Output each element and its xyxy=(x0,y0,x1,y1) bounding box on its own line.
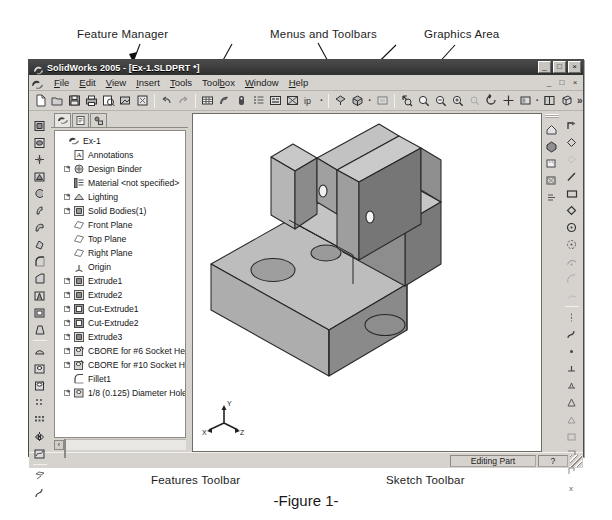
document-restore-button[interactable]: □ xyxy=(557,78,567,87)
feature-tree-item[interactable]: Cut-Extrude2 xyxy=(58,316,185,330)
solidworks-logo-icon[interactable] xyxy=(31,77,44,89)
curves-icon[interactable] xyxy=(31,445,49,462)
expand-toggle-icon[interactable] xyxy=(63,319,72,328)
zoom-in-out-icon[interactable] xyxy=(432,93,449,109)
redo-icon[interactable] xyxy=(175,93,192,109)
feature-tree-item[interactable]: Extrude2 xyxy=(58,288,185,302)
previous-view-icon[interactable] xyxy=(466,93,483,109)
tangent-arc-icon[interactable] xyxy=(563,270,581,287)
expand-toggle-icon[interactable] xyxy=(63,207,72,216)
extruded-cut-icon[interactable] xyxy=(31,185,49,202)
view-orientation-dropdown-icon[interactable] xyxy=(517,93,534,109)
open-document-icon[interactable] xyxy=(49,93,66,109)
close-button[interactable]: × xyxy=(568,61,581,73)
curve-tools-icon[interactable] xyxy=(31,484,49,501)
circle-icon[interactable] xyxy=(563,219,581,236)
options-icon[interactable] xyxy=(233,93,250,109)
expand-toggle-icon[interactable] xyxy=(63,333,72,342)
feature-tree-item[interactable]: CBORE for #10 Socket Head C xyxy=(58,358,185,372)
edit-color-icon[interactable] xyxy=(216,93,233,109)
simple-hole-icon[interactable] xyxy=(31,360,49,377)
swept-cut-icon[interactable] xyxy=(31,219,49,236)
feature-tree-item[interactable]: Right Plane xyxy=(58,246,185,260)
undo-icon[interactable] xyxy=(158,93,175,109)
maximize-button[interactable]: □ xyxy=(553,61,566,73)
offset-entities-icon[interactable] xyxy=(563,394,581,411)
sketch-fillet-icon[interactable]: x xyxy=(563,479,581,496)
hidden-lines-icon[interactable] xyxy=(543,155,561,172)
display-style-icon[interactable]: ip xyxy=(301,93,318,109)
circular-pattern-icon[interactable] xyxy=(31,411,49,428)
shell-icon[interactable] xyxy=(31,304,49,321)
feature-tree-item[interactable]: Fillet1 xyxy=(58,372,185,386)
select-sketch-icon[interactable] xyxy=(563,151,581,168)
centerpoint-arc-icon[interactable] xyxy=(563,253,581,270)
configuration-manager-tab[interactable] xyxy=(90,113,107,127)
display-pattern-icon[interactable] xyxy=(541,93,558,109)
three-point-arc-icon[interactable] xyxy=(563,287,581,304)
lofted-cut-icon[interactable] xyxy=(31,236,49,253)
part-model[interactable] xyxy=(193,114,523,444)
expand-toggle-icon[interactable] xyxy=(63,305,72,314)
perimeter-circle-icon[interactable] xyxy=(563,236,581,253)
menu-file[interactable]: FFileile xyxy=(49,77,74,88)
rectangle-icon[interactable] xyxy=(563,185,581,202)
feature-tree[interactable]: Ex-1AAnnotationsDesign BinderMaterial <n… xyxy=(54,130,186,438)
feature-tree-item[interactable]: Lighting xyxy=(58,190,185,204)
feature-tree-item[interactable]: Top Plane xyxy=(58,232,185,246)
expand-toggle-icon[interactable] xyxy=(63,291,72,300)
publish-edrawings-icon[interactable] xyxy=(117,93,134,109)
ellipse-icon[interactable] xyxy=(563,309,581,326)
feature-tree-item[interactable]: AAnnotations xyxy=(58,148,185,162)
zoom-to-selection-icon[interactable] xyxy=(449,93,466,109)
scroll-left-arrow[interactable]: ‹ xyxy=(54,440,64,450)
feature-tree-item[interactable]: Extrude1 xyxy=(58,274,185,288)
scroll-thumb[interactable] xyxy=(64,439,66,458)
standard-toolbar-overflow[interactable]: » xyxy=(575,95,585,106)
chamfer-icon[interactable] xyxy=(31,270,49,287)
menu-insert[interactable]: Insert xyxy=(131,77,165,88)
document-minimize-button[interactable]: _ xyxy=(544,78,554,87)
parallelogram-icon[interactable] xyxy=(563,202,581,219)
feature-tree-item[interactable]: Cut-Extrude1 xyxy=(58,302,185,316)
save-icon[interactable] xyxy=(66,93,83,109)
draft-icon[interactable] xyxy=(31,321,49,338)
feature-tree-item[interactable]: Solid Bodies(1) xyxy=(58,204,185,218)
pan-icon[interactable] xyxy=(500,93,517,109)
feature-tree-item[interactable]: Ex-1 xyxy=(58,134,185,148)
zoom-to-area-icon[interactable] xyxy=(415,93,432,109)
text-icon[interactable] xyxy=(563,377,581,394)
rotate-view-icon[interactable] xyxy=(483,93,500,109)
expand-toggle-icon[interactable] xyxy=(63,361,72,370)
scroll-track[interactable] xyxy=(64,439,186,450)
expand-toggle-icon[interactable] xyxy=(63,389,72,398)
graphics-area[interactable]: Y X Z xyxy=(192,113,542,452)
mass-properties-icon[interactable] xyxy=(267,93,284,109)
rib-icon[interactable] xyxy=(31,287,49,304)
sketch-icon[interactable] xyxy=(563,117,581,134)
resize-grip[interactable] xyxy=(570,455,582,467)
revolved-cut-icon[interactable] xyxy=(31,202,49,219)
feature-tree-item[interactable]: Extrude3 xyxy=(58,330,185,344)
print-icon[interactable] xyxy=(83,93,100,109)
convert-entities-icon[interactable] xyxy=(563,411,581,428)
shaded-with-edges-icon[interactable] xyxy=(543,138,561,155)
minimize-button[interactable]: _ xyxy=(538,61,551,73)
feature-tree-item[interactable]: Origin xyxy=(58,260,185,274)
lofted-boss-base-icon[interactable] xyxy=(31,168,49,185)
expand-toggle-icon[interactable] xyxy=(63,277,72,286)
home-view-icon[interactable] xyxy=(543,121,561,138)
hole-wizard-icon[interactable] xyxy=(31,377,49,394)
shadows-icon[interactable] xyxy=(558,93,575,109)
feature-tree-item[interactable]: 1/8 (0.125) Diameter Hole1 xyxy=(58,386,185,400)
measure-icon[interactable] xyxy=(250,93,267,109)
point-icon[interactable] xyxy=(563,343,581,360)
smart-dimension-icon[interactable] xyxy=(563,134,581,151)
expand-toggle-icon[interactable] xyxy=(63,347,72,356)
mirror-icon[interactable] xyxy=(31,428,49,445)
linear-pattern-icon[interactable] xyxy=(31,394,49,411)
view-orientation-icon[interactable] xyxy=(349,93,366,109)
new-document-icon[interactable] xyxy=(32,93,49,109)
menu-window[interactable]: Window xyxy=(240,77,284,88)
property-manager-tab[interactable] xyxy=(72,113,89,127)
